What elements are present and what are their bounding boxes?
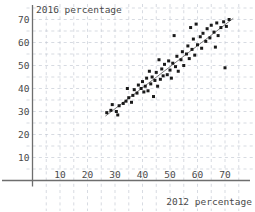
data-point — [186, 44, 189, 47]
data-point — [144, 85, 147, 88]
x-tick-label: 10 — [54, 169, 66, 180]
data-point — [169, 69, 172, 72]
data-point — [155, 71, 158, 74]
data-point — [189, 26, 192, 29]
data-point — [140, 87, 143, 90]
data-point — [206, 27, 209, 30]
data-point — [182, 64, 185, 67]
data-point — [199, 35, 202, 38]
data-point — [208, 36, 211, 39]
data-point — [122, 102, 125, 105]
data-point — [215, 21, 218, 24]
data-point — [145, 77, 148, 80]
data-point — [136, 92, 139, 95]
y-tick-label: 40 — [18, 83, 30, 94]
data-point — [163, 63, 166, 66]
data-point — [210, 24, 213, 27]
data-point — [127, 96, 130, 99]
x-tick-label: 30 — [109, 169, 121, 180]
data-point — [202, 32, 205, 35]
y-tick-label: 60 — [18, 37, 30, 48]
y-tick-label: 20 — [18, 129, 30, 140]
data-point — [222, 20, 225, 23]
data-point — [162, 74, 165, 77]
data-point — [137, 84, 140, 87]
data-point — [214, 46, 217, 49]
data-point — [204, 40, 207, 43]
scatter-chart: 10203040506070 10203040506070 2016 perce… — [0, 0, 255, 212]
y-axis-title: 2016 percentage — [36, 4, 122, 15]
data-point — [175, 55, 178, 58]
x-tick-label: 40 — [137, 169, 149, 180]
data-point — [213, 31, 216, 34]
x-tick-label: 70 — [219, 169, 231, 180]
y-tick-labels: 10203040506070 — [18, 14, 30, 163]
plot-area: 10203040506070 10203040506070 2016 perce… — [0, 0, 255, 212]
y-tick-label: 50 — [18, 60, 30, 71]
data-point — [131, 94, 134, 97]
y-tick-label: 30 — [18, 106, 30, 117]
x-tick-label: 50 — [164, 169, 176, 180]
data-point — [141, 80, 144, 83]
data-point — [126, 87, 129, 90]
data-point — [174, 65, 177, 68]
data-point — [180, 58, 183, 61]
data-point — [118, 104, 121, 107]
data-point — [147, 89, 150, 92]
data-point — [115, 110, 118, 113]
y-tick-label: 70 — [18, 14, 30, 25]
data-point — [148, 70, 151, 73]
data-point — [224, 66, 227, 69]
data-point — [191, 48, 194, 51]
data-point — [152, 95, 155, 98]
data-point — [158, 58, 161, 61]
x-tick-label: 20 — [82, 169, 94, 180]
data-point — [177, 70, 180, 73]
data-point — [149, 82, 152, 85]
data-point — [225, 25, 228, 28]
data-point — [105, 111, 108, 114]
data-point — [228, 18, 231, 21]
data-point — [171, 62, 174, 65]
data-point — [111, 103, 114, 106]
data-point — [156, 85, 159, 88]
data-point — [166, 73, 169, 76]
x-tick-label: 60 — [192, 169, 204, 180]
data-point — [153, 79, 156, 82]
y-tick-label: 10 — [18, 152, 30, 163]
data-point — [133, 88, 136, 91]
x-tick-labels: 10203040506070 — [54, 169, 231, 180]
data-point — [219, 26, 222, 29]
data-point — [173, 34, 176, 37]
data-point — [193, 54, 196, 57]
data-point — [160, 67, 163, 70]
data-point — [167, 59, 170, 62]
data-point — [200, 47, 203, 50]
data-point — [185, 53, 188, 56]
data-point — [195, 23, 198, 26]
data-point — [116, 113, 119, 116]
data-point — [170, 77, 173, 80]
data-point — [196, 43, 199, 46]
data-point — [125, 100, 128, 103]
data-point — [109, 109, 112, 112]
x-axis-title: 2012 percentage — [166, 196, 252, 207]
data-point — [188, 57, 191, 60]
data-point — [142, 90, 145, 93]
data-point — [217, 34, 220, 37]
data-point — [181, 50, 184, 53]
data-point — [192, 38, 195, 41]
data-point — [130, 101, 133, 104]
data-point — [151, 76, 154, 79]
data-point — [159, 78, 162, 81]
